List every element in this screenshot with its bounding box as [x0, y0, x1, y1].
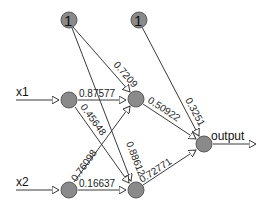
hidden-node-2: [128, 182, 144, 198]
weight-x2-hidden2: 0.16637: [79, 178, 116, 189]
neural-network-diagram: 1 1 x1 x2 output 0.87577 0.16637 0.7209 …: [0, 0, 274, 209]
bias-node-1-label: 1: [64, 12, 72, 29]
bias-node-2: 1: [131, 12, 147, 29]
weight-x1-hidden1: 0.87577: [79, 88, 116, 99]
hidden-node-1: [128, 91, 144, 107]
output-node: [196, 136, 212, 152]
edge-bias1-hidden1: [73, 27, 130, 92]
bias-node-2-label: 1: [134, 12, 142, 29]
input-node-x1: [61, 92, 77, 108]
bias-node-1: 1: [61, 12, 77, 29]
output-label: output: [211, 129, 245, 143]
input-label-x1: x1: [16, 85, 29, 99]
edge-bias1-hidden2: [72, 28, 131, 181]
input-label-x2: x2: [16, 175, 29, 189]
weight-bias1-hidden1: 0.7209: [111, 59, 140, 90]
input-node-x2: [61, 182, 77, 198]
edge-bias2-output: [142, 27, 199, 136]
